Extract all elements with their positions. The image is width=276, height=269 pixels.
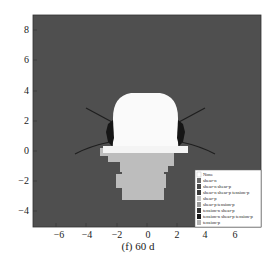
svg-text:tension-p: tension-p	[203, 220, 221, 225]
svg-text:−2: −2	[18, 175, 29, 186]
svg-text:−2: −2	[112, 229, 123, 240]
x-tick-labels: −6 −4 −2 0 2 4 6	[54, 229, 238, 240]
svg-text:2: 2	[24, 115, 29, 126]
svg-text:4: 4	[24, 85, 29, 96]
svg-text:6: 6	[24, 54, 29, 65]
svg-text:−4: −4	[18, 205, 29, 216]
svg-text:−4: −4	[82, 229, 93, 240]
legend: None shear-n shear-n shear-p shear-n she…	[195, 170, 261, 227]
y-tick-labels: 8 6 4 2 0 −2 −4	[18, 24, 29, 216]
svg-text:2: 2	[175, 229, 180, 240]
svg-text:−6: −6	[54, 229, 65, 240]
svg-text:shear-p tension-p: shear-p tension-p	[203, 202, 235, 207]
svg-text:shear-n shear-p: shear-n shear-p	[203, 184, 232, 189]
svg-text:8: 8	[24, 24, 29, 35]
svg-text:shear-p: shear-p	[203, 196, 217, 201]
svg-text:0: 0	[146, 229, 151, 240]
plot-figure: −6 −4 −2 0 2 4 6 8 6 4 2 0 −2 −4 None sh…	[0, 0, 276, 269]
figure-caption: (f) 60 d	[0, 240, 276, 252]
svg-text:tension-n shear-p tension-p: tension-n shear-p tension-p	[203, 214, 254, 219]
svg-text:tension-n shear-p: tension-n shear-p	[203, 208, 235, 213]
svg-text:shear-n: shear-n	[203, 178, 217, 183]
svg-text:6: 6	[233, 229, 238, 240]
svg-text:0: 0	[24, 145, 29, 156]
svg-text:None: None	[203, 172, 213, 177]
svg-text:4: 4	[203, 229, 208, 240]
svg-text:shear-n shear-p tension-p: shear-n shear-p tension-p	[203, 190, 250, 195]
